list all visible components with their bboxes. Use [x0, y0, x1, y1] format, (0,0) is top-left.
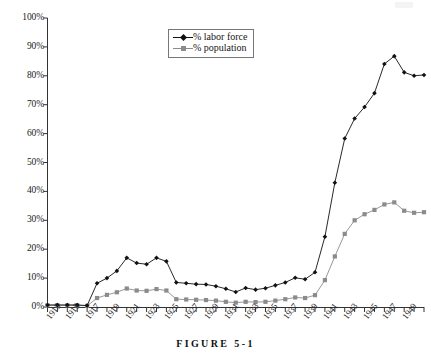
data-point-marker: [95, 281, 100, 286]
series-labor-force: [45, 54, 426, 308]
data-point-marker: [194, 298, 198, 302]
data-point-marker: [273, 299, 277, 303]
series-line: [48, 56, 425, 305]
legend-item-population: % population: [173, 43, 247, 54]
data-point-marker: [194, 282, 199, 287]
axis-group: [48, 18, 425, 308]
y-axis-tick-label: 90%: [0, 42, 44, 52]
data-point-marker: [263, 286, 268, 291]
y-axis-tick-label: 10%: [0, 273, 44, 283]
data-point-marker: [293, 276, 298, 281]
data-point-marker: [303, 296, 307, 300]
data-point-marker: [154, 256, 159, 261]
figure-caption: FIGURE 5-1: [0, 338, 431, 349]
figure-container: 0%10%20%30%40%50%60%70%80%90%100% 191319…: [0, 0, 431, 362]
data-point-marker: [273, 283, 278, 288]
square-marker-icon: [173, 43, 193, 53]
data-point-marker: [342, 136, 347, 141]
y-axis-tick-labels: 0%10%20%30%40%50%60%70%80%90%100%: [0, 0, 44, 320]
data-point-marker: [412, 74, 417, 79]
data-point-marker: [224, 286, 229, 291]
data-point-marker: [135, 288, 139, 292]
y-axis-tick-label: 60%: [0, 129, 44, 139]
data-point-marker: [134, 261, 139, 266]
data-point-marker: [164, 259, 169, 264]
data-point-marker: [362, 212, 366, 216]
data-point-marker: [125, 286, 129, 290]
data-point-marker: [333, 180, 338, 185]
data-point-marker: [283, 297, 287, 301]
data-point-marker: [283, 280, 288, 285]
data-point-marker: [353, 218, 357, 222]
data-point-marker: [402, 70, 407, 75]
data-point-marker: [105, 293, 109, 297]
data-point-marker: [174, 297, 178, 301]
data-point-marker: [164, 288, 168, 292]
data-point-marker: [343, 232, 347, 236]
data-point-marker: [402, 209, 406, 213]
y-axis-tick-label: 30%: [0, 215, 44, 225]
data-point-marker: [184, 297, 188, 301]
legend-label-population: % population: [193, 43, 247, 54]
data-point-marker: [204, 282, 209, 287]
data-point-marker: [204, 298, 208, 302]
data-point-marker: [224, 300, 228, 304]
y-axis-tick-label: 40%: [0, 186, 44, 196]
data-point-marker: [323, 278, 327, 282]
data-point-marker: [422, 73, 427, 78]
data-point-marker: [115, 290, 119, 294]
data-point-marker: [214, 284, 219, 289]
data-point-marker: [244, 300, 248, 304]
data-point-marker: [323, 234, 328, 239]
data-point-marker: [184, 281, 189, 286]
y-tick-marks: [44, 18, 48, 307]
data-point-marker: [144, 289, 148, 293]
data-point-marker: [144, 262, 149, 267]
data-point-marker: [95, 296, 99, 300]
y-axis-tick-label: 0%: [0, 302, 44, 312]
data-point-marker: [253, 287, 258, 292]
data-point-marker: [234, 301, 238, 305]
y-axis-tick-label: 80%: [0, 71, 44, 81]
y-axis-tick-label: 20%: [0, 244, 44, 254]
data-point-marker: [243, 286, 248, 291]
diamond-marker-icon: [173, 32, 193, 42]
y-axis-tick-label: 100%: [0, 13, 44, 23]
data-point-marker: [174, 280, 179, 285]
data-point-marker: [233, 290, 238, 295]
y-axis-tick-label: 70%: [0, 100, 44, 110]
data-point-marker: [313, 293, 317, 297]
data-point-marker: [253, 300, 257, 304]
data-point-marker: [214, 299, 218, 303]
data-point-marker: [422, 210, 426, 214]
data-point-marker: [392, 200, 396, 204]
data-point-marker: [293, 295, 297, 299]
data-point-marker: [263, 300, 267, 304]
data-point-marker: [412, 211, 416, 215]
data-point-marker: [382, 202, 386, 206]
data-point-marker: [333, 254, 337, 258]
chart-legend: % labor force % population: [168, 29, 254, 58]
data-point-marker: [154, 287, 158, 291]
y-axis-tick-label: 50%: [0, 158, 44, 168]
data-point-marker: [372, 208, 376, 212]
